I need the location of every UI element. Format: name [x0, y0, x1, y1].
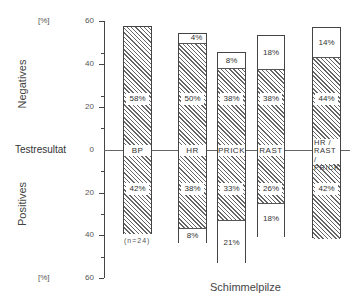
unit-label-bottom: [%]: [38, 273, 50, 282]
bar-bp: 58% BP 42%: [123, 26, 152, 234]
testresultat-label: Testresultat: [15, 144, 66, 155]
bar-hr-rast-prick: 14% 44% HR / RAST / PRICK 42%: [312, 27, 341, 238]
n-note: (n=24): [124, 237, 150, 244]
bar-rast: 18% 38% RAST 26% 18%: [257, 35, 285, 237]
rast-pos-white-value: 18%: [260, 213, 282, 225]
prick-pos-value: 33%: [220, 183, 243, 195]
tick-40-top: [99, 64, 104, 65]
prick-neg-value: 38%: [220, 93, 243, 105]
prick-pos-white-value: 21%: [220, 237, 243, 249]
tick-minor: [101, 214, 104, 215]
positives-label: Positives: [16, 174, 28, 234]
prick-neg-white-value: 8%: [220, 55, 243, 67]
hr-pos-value: 38%: [181, 183, 204, 195]
tick-label: 40: [70, 59, 94, 68]
hr-pos-white-value: 8%: [181, 230, 204, 242]
tick-minor: [101, 171, 104, 172]
combo-neg-value: 44%: [315, 93, 338, 105]
hr-hatch: [179, 43, 206, 229]
bp-pos-value: 42%: [126, 183, 149, 195]
x-axis-title: Schimmelpilze: [210, 281, 281, 293]
unit-label-top: [%]: [38, 16, 50, 25]
tick-label: 20: [70, 188, 94, 197]
negatives-label: Negatives: [16, 54, 28, 114]
tick-minor: [101, 53, 104, 54]
tick-label: 0: [70, 145, 94, 154]
rast-category: RAST: [258, 145, 284, 156]
combo-category: HR / RAST / PRICK: [313, 139, 340, 164]
tick-40-bottom: [99, 235, 104, 236]
bar-hr: 4% 50% HR 38% 8%: [178, 33, 207, 243]
bp-category: BP: [124, 145, 151, 156]
rast-neg-value: 38%: [260, 93, 282, 105]
tick-60-top: [99, 21, 104, 22]
rast-neg-white-value: 18%: [260, 47, 282, 59]
hr-neg-value: 50%: [181, 93, 204, 105]
tick-label: 40: [70, 230, 94, 239]
combo-category-line: RAST /: [314, 147, 340, 164]
tick-label: 60: [70, 16, 94, 25]
combo-category-line: PRICK: [314, 164, 340, 172]
tick-minor: [101, 128, 104, 129]
combo-neg-white-value: 14%: [315, 37, 338, 49]
bp-hatch: [124, 27, 151, 234]
tick-label: 20: [70, 102, 94, 111]
rast-pos-value: 26%: [260, 183, 282, 195]
tick-20-bottom: [99, 193, 104, 194]
combo-pos-value: 42%: [315, 183, 338, 195]
tick-60-bottom: [99, 278, 104, 279]
tick-minor: [101, 257, 104, 258]
hr-category: HR: [179, 145, 206, 156]
tick-20-top: [99, 107, 104, 108]
bp-neg-value: 58%: [126, 93, 149, 105]
bar-prick: 8% 38% PRICK 33% 21%: [217, 52, 246, 263]
tick-label: 60: [70, 273, 94, 282]
tick-minor: [101, 96, 104, 97]
prick-category: PRICK: [218, 145, 245, 156]
